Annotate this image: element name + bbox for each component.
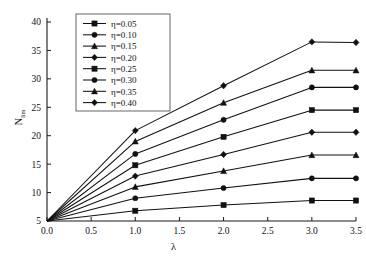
x-tick-label: 1.0 [129, 226, 141, 236]
marker-circle [353, 85, 358, 90]
legend-label: η=0.05 [111, 19, 137, 29]
marker-square [309, 108, 314, 113]
y-tick-label: 10 [32, 188, 42, 198]
y-tick-label: 5 [36, 216, 41, 226]
line-chart: 0.00.51.01.52.02.53.03.5510152025303540λ… [0, 0, 366, 263]
marker-square [92, 21, 97, 26]
marker-square [221, 202, 226, 207]
y-tick-label: 20 [32, 131, 42, 141]
marker-square [309, 198, 314, 203]
y-tick-label: 25 [32, 103, 42, 113]
legend-label: η=0.15 [111, 41, 137, 51]
marker-diamond [221, 82, 227, 88]
legend-label: η=0.25 [111, 64, 137, 74]
y-axis-title: Nlim [13, 109, 26, 125]
legend-label: η=0.30 [111, 75, 137, 85]
y-axis-title-subscript: lim [19, 109, 26, 117]
marker-diamond [353, 39, 359, 45]
series-line-4 [47, 110, 356, 221]
x-tick-label: 2.5 [262, 226, 274, 236]
marker-square [221, 134, 226, 139]
marker-circle [221, 117, 226, 122]
y-tick-label: 35 [32, 46, 42, 56]
marker-circle [309, 176, 314, 181]
legend-label: η=0.35 [111, 87, 137, 97]
y-tick-label: 15 [32, 160, 42, 170]
marker-diamond [132, 173, 138, 179]
y-tick-label: 30 [32, 74, 42, 84]
marker-circle [133, 196, 138, 201]
y-tick-label: 40 [32, 17, 42, 27]
marker-circle [92, 32, 97, 37]
x-tick-label: 0.0 [41, 226, 53, 236]
marker-square [92, 66, 97, 71]
series-2 [47, 152, 359, 221]
y-axis-title-text: Nlim [13, 109, 26, 125]
marker-square [133, 163, 138, 168]
series-line-2 [47, 155, 356, 221]
marker-diamond [353, 129, 359, 135]
x-tick-label: 1.5 [173, 226, 185, 236]
x-tick-label: 3.0 [306, 226, 318, 236]
marker-circle [221, 185, 226, 190]
legend: η=0.05η=0.10η=0.15η=0.20η=0.25η=0.30η=0.… [76, 14, 170, 111]
x-tick-label: 2.0 [218, 226, 230, 236]
marker-diamond [309, 39, 315, 45]
series-4 [47, 108, 359, 221]
marker-circle [133, 151, 138, 156]
marker-circle [92, 77, 97, 82]
marker-circle [353, 176, 358, 181]
chart-figure: 0.00.51.01.52.02.53.03.5510152025303540λ… [0, 0, 366, 263]
legend-label: η=0.10 [111, 30, 137, 40]
marker-square [133, 208, 138, 213]
x-tick-label: 3.5 [350, 226, 362, 236]
legend-label: η=0.40 [111, 98, 137, 108]
x-axis-title: λ [171, 241, 177, 252]
marker-square [353, 108, 358, 113]
marker-triangle [132, 138, 138, 144]
marker-diamond [309, 129, 315, 135]
x-tick-label: 0.5 [85, 226, 97, 236]
legend-label: η=0.20 [111, 53, 137, 63]
marker-square [353, 198, 358, 203]
marker-circle [309, 85, 314, 90]
marker-diamond [221, 151, 227, 157]
